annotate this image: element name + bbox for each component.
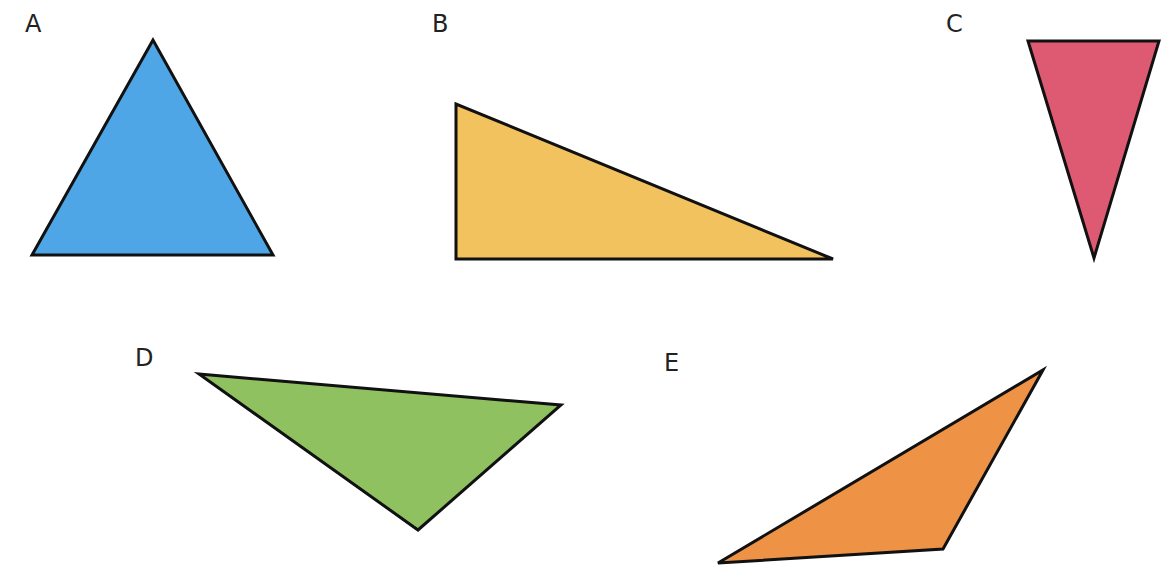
triangle-e [718,370,1043,563]
label-d: D [135,346,153,370]
triangle-c [1028,41,1159,258]
triangle-a [32,40,273,255]
label-b: B [432,12,448,36]
label-e: E [664,351,679,375]
label-a: A [25,12,41,36]
label-c: C [946,12,963,36]
triangle-d [199,374,561,530]
triangles-canvas [0,0,1169,578]
triangle-b [456,104,833,259]
